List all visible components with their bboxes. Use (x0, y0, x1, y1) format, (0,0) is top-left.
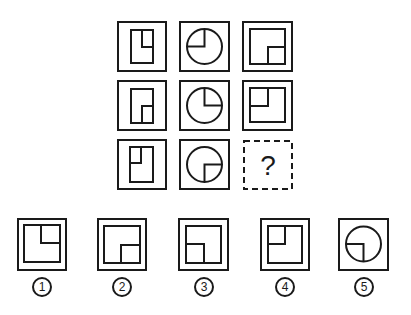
option-3-figure[interactable] (179, 219, 228, 270)
grid-cell-r2c2 (180, 81, 229, 130)
question-mark: ? (244, 146, 292, 186)
grid-cell-r3c1 (118, 140, 166, 189)
option-4-figure[interactable] (261, 219, 309, 270)
puzzle-figure (0, 0, 411, 315)
grid-cell-r1c2 (180, 22, 229, 71)
option-5-figure[interactable] (339, 219, 388, 270)
grid-cell-r1c3 (243, 22, 292, 71)
option-1-label[interactable]: 1 (32, 277, 52, 297)
option-4-label[interactable]: 4 (275, 277, 295, 297)
grid-cell-r2c3 (243, 81, 292, 130)
grid-cell-r3c2 (180, 140, 229, 189)
option-2-label[interactable]: 2 (112, 277, 132, 297)
grid-cell-r1c1 (118, 22, 166, 71)
option-3-label[interactable]: 3 (194, 277, 214, 297)
option-5-label[interactable]: 5 (354, 277, 374, 297)
grid-cell-r2c1 (118, 81, 166, 130)
option-1-figure[interactable] (18, 219, 66, 270)
option-2-figure[interactable] (98, 219, 146, 270)
